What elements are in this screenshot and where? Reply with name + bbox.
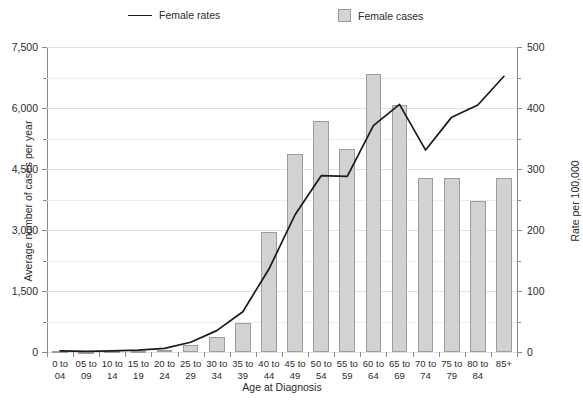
bar	[496, 178, 512, 352]
y-axis-left-label: 4,500	[0, 164, 38, 175]
x-axis-tick	[360, 352, 361, 357]
x-axis-label: 65 to69	[386, 358, 412, 382]
x-axis-title: Age at Diagnosis	[47, 381, 517, 393]
x-axis-tick	[282, 352, 283, 357]
bar	[287, 154, 303, 352]
x-axis-label: 35 to39	[230, 358, 256, 382]
y-axis-right-minor-tick	[517, 139, 521, 140]
x-axis-label: 0 to04	[47, 358, 73, 382]
x-axis-tick	[151, 352, 152, 357]
bar	[313, 121, 329, 352]
gridline-minor	[47, 78, 517, 79]
x-axis-tick	[125, 352, 126, 357]
bar	[418, 178, 434, 352]
y-axis-left-label: 7,500	[0, 42, 38, 53]
x-axis-tick	[517, 352, 518, 357]
y-axis-right-tick	[517, 108, 522, 109]
y-axis-right-tick	[517, 291, 522, 292]
chart-legend: Female rates Female cases	[0, 5, 583, 31]
x-axis-label: 05 to09	[73, 358, 99, 382]
bar	[52, 351, 68, 353]
bar-swatch-icon	[338, 9, 351, 22]
x-axis-tick	[465, 352, 466, 357]
gridline-major	[47, 169, 517, 170]
y-axis-left-label: 3,000	[0, 225, 38, 236]
bar	[131, 351, 147, 353]
x-axis-tick	[47, 352, 48, 357]
x-axis-label: 60 to64	[360, 358, 386, 382]
y-axis-right-label: 300	[527, 164, 567, 175]
y-axis-right-label: 0	[527, 347, 567, 358]
gridline-major	[47, 47, 517, 48]
y-axis-left-label: 6,000	[0, 103, 38, 114]
y-axis-right-minor-tick	[517, 322, 521, 323]
bar	[235, 323, 251, 352]
x-axis-tick	[178, 352, 179, 357]
x-axis-label: 75 to79	[439, 358, 465, 382]
bar	[444, 178, 460, 352]
y-axis-right-minor-tick	[517, 200, 521, 201]
y-axis-right-tick	[517, 230, 522, 231]
bar	[183, 345, 199, 352]
legend-label-female-cases: Female cases	[358, 10, 423, 22]
bar	[104, 351, 120, 353]
y-axis-right-label: 100	[527, 286, 567, 297]
x-axis-label: 45 to49	[282, 358, 308, 382]
x-axis-label: 20 to24	[151, 358, 177, 382]
bar	[78, 352, 94, 354]
x-axis-label: 40 to44	[256, 358, 282, 382]
x-axis-label: 50 to54	[308, 358, 334, 382]
y-axis-left-label: 0	[0, 347, 38, 358]
y-axis-right-minor-tick	[517, 78, 521, 79]
x-axis-tick	[386, 352, 387, 357]
y-axis-right-minor-tick	[517, 261, 521, 262]
x-axis-tick	[308, 352, 309, 357]
plot-area	[47, 47, 517, 352]
bar	[366, 74, 382, 352]
x-axis-tick	[256, 352, 257, 357]
x-axis-tick	[73, 352, 74, 357]
line-swatch-icon	[128, 15, 152, 16]
x-axis-tick	[334, 352, 335, 357]
gridline-minor	[47, 139, 517, 140]
bar	[470, 201, 486, 352]
x-axis-label: 15 to19	[125, 358, 151, 382]
gridline-major	[47, 108, 517, 109]
x-axis-tick	[491, 352, 492, 357]
legend-item-female-rates: Female rates	[128, 9, 220, 21]
x-axis-tick	[230, 352, 231, 357]
y-axis-right-label: 400	[527, 103, 567, 114]
bar	[339, 149, 355, 352]
y-axis-right-tick	[517, 169, 522, 170]
x-axis-tick	[439, 352, 440, 357]
y-axis-right-label: 200	[527, 225, 567, 236]
x-axis-label: 30 to34	[204, 358, 230, 382]
chart-container: Female rates Female cases Average number…	[0, 0, 583, 404]
x-axis-tick	[99, 352, 100, 357]
bar	[261, 232, 277, 352]
x-axis-label: 80 to84	[465, 358, 491, 382]
y-axis-right-title: Rate per 100,000	[569, 81, 581, 321]
x-axis-tick	[204, 352, 205, 357]
x-axis-label: 70 to74	[413, 358, 439, 382]
x-axis-label: 10 to14	[99, 358, 125, 382]
x-axis-label: 85+	[491, 358, 517, 370]
legend-item-female-cases: Female cases	[338, 9, 423, 22]
x-axis-label: 55 to59	[334, 358, 360, 382]
legend-label-female-rates: Female rates	[159, 9, 220, 21]
y-axis-right-label: 500	[527, 42, 567, 53]
x-axis-tick	[413, 352, 414, 357]
x-axis-label: 25 to29	[178, 358, 204, 382]
y-axis-left-label: 1,500	[0, 286, 38, 297]
bar	[392, 105, 408, 352]
bar	[209, 337, 225, 352]
y-axis-right-tick	[517, 47, 522, 48]
bar	[157, 350, 173, 352]
